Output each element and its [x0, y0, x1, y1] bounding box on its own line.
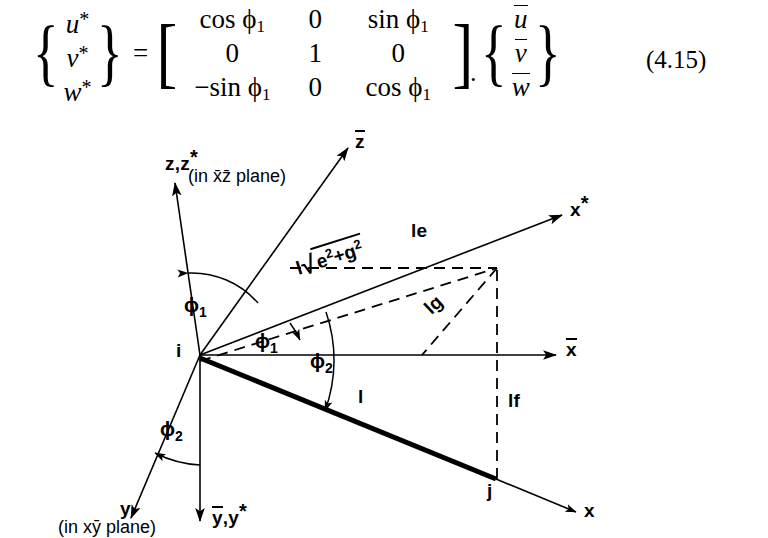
matrix-cell-12: 0 [284, 2, 346, 36]
label-zbar: z [355, 130, 365, 153]
axis-line-x [496, 479, 576, 512]
arc-phi2-bottom [155, 453, 200, 465]
matrix-cell-31: −sin ϕ1 [180, 70, 284, 112]
label-le: le [411, 220, 427, 242]
rhs-entry-wbar: w [512, 70, 530, 104]
rhs-entry-ubar: u [512, 2, 530, 36]
lhs-entry-u: u* [64, 2, 92, 36]
rhs-close-brace: } [535, 17, 561, 88]
matrix-cell-21: 0 [180, 36, 284, 70]
matrix-cell-32: 0 [284, 70, 346, 104]
label-origin-i: i [176, 340, 181, 362]
label-xz-plane-note: (in x̄z̄ plane) [188, 166, 286, 187]
label-lf: lf [508, 390, 520, 412]
rotation-matrix: cos ϕ10sin ϕ1 010 −sin ϕ10cos ϕ1 [180, 2, 450, 104]
axis-line-z-zstar [175, 183, 200, 355]
label-endpoint-j: j [487, 480, 492, 502]
matrix-cell-33: cos ϕ1 [346, 70, 450, 112]
label-xstar: x* [570, 192, 589, 221]
label-x: x [584, 500, 595, 522]
equation-expression: { u* v* w* }=[ cos ϕ10sin ϕ1 010 −sin ϕ1… [28, 2, 565, 104]
label-phi2-right: ϕ2 [310, 350, 333, 376]
label-ybar-ystar: y,y* [212, 500, 247, 529]
dashed-i-to-corner [200, 268, 497, 361]
label-xybar-plane-note: (in xȳ plane) [58, 518, 156, 537]
page-root: { u* v* w* }=[ cos ϕ10sin ϕ1 010 −sin ϕ1… [0, 0, 768, 538]
lhs-close-brace: } [97, 17, 123, 88]
diagram-svg [0, 118, 768, 538]
equation-number: (4.15) [646, 46, 706, 74]
matrix-row-2: 010 [180, 36, 450, 70]
rhs-entry-vbar: v [512, 36, 530, 70]
coordinate-diagram: z,z* (in x̄z̄ plane) z x* x x y (in xȳ p… [0, 118, 768, 538]
matrix-row-1: cos ϕ10sin ϕ1 [180, 2, 450, 36]
label-length-l: l [358, 386, 363, 408]
lhs-column-vector: u* v* w* [64, 2, 92, 104]
equation-block: { u* v* w* }=[ cos ϕ10sin ϕ1 010 −sin ϕ1… [0, 0, 768, 120]
lhs-entry-w: w* [64, 70, 92, 104]
lhs-open-brace: { [33, 17, 59, 88]
label-xbar: x [566, 338, 577, 361]
label-phi2-bottom: ϕ2 [160, 418, 183, 444]
rhs-open-brace: { [481, 17, 507, 88]
lhs-entry-v: v* [64, 36, 92, 70]
rhs-column-vector: u v w [512, 2, 530, 104]
member-line-ij [200, 358, 496, 479]
equation-period: . [470, 58, 477, 88]
label-phi1-top: ϕ1 [184, 294, 207, 320]
label-phi1-middle: ϕ1 [255, 330, 278, 356]
matrix-open-bracket: [ [157, 16, 178, 90]
matrix-cell-22: 1 [284, 36, 346, 70]
equals-sign: = [127, 40, 154, 67]
matrix-cell-23: 0 [346, 36, 450, 70]
matrix-row-3: −sin ϕ10cos ϕ1 [180, 70, 450, 104]
